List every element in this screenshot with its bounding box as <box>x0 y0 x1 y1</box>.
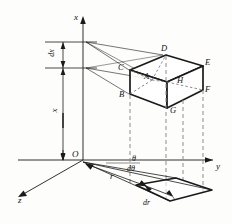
vertex-label-B: B <box>119 90 124 99</box>
vertex-label-C: C <box>118 63 124 72</box>
x-axis-arrowhead <box>80 16 86 24</box>
axis-group <box>18 16 213 197</box>
vertex-label-E: E <box>205 58 210 67</box>
theta-label: θ <box>132 155 136 163</box>
diagram-svg <box>0 0 232 224</box>
dx-arrowhead-down <box>61 61 66 68</box>
figure-canvas: x y z O dx x r dr θ dθ A B C D E F G H <box>0 0 232 224</box>
vertex-label-H: H <box>177 76 183 85</box>
x-height-dimension <box>61 68 66 160</box>
vertex-label-F: F <box>205 85 210 94</box>
z-axis-line <box>20 160 83 196</box>
dx-label: dx <box>48 49 56 57</box>
vertex-label-D: D <box>161 44 167 53</box>
vertex-label-G: G <box>170 106 176 115</box>
r-dimension <box>85 164 147 187</box>
x-height-arrowhead-up <box>61 68 66 75</box>
dx-arrowhead-up <box>61 42 66 49</box>
dtheta-label: dθ <box>127 165 135 173</box>
r-label: r <box>110 172 114 181</box>
z-axis-label: z <box>18 196 22 205</box>
dr-label: dr <box>143 199 150 207</box>
origin-marker <box>61 150 66 161</box>
x-axis-label: x <box>74 13 78 22</box>
vertex-label-A: A <box>144 72 149 81</box>
origin-label: O <box>72 150 79 159</box>
dx-dimension <box>61 42 66 68</box>
x-height-label: x <box>50 109 59 113</box>
y-axis-arrowhead <box>205 157 213 163</box>
y-axis-label: y <box>216 162 220 171</box>
